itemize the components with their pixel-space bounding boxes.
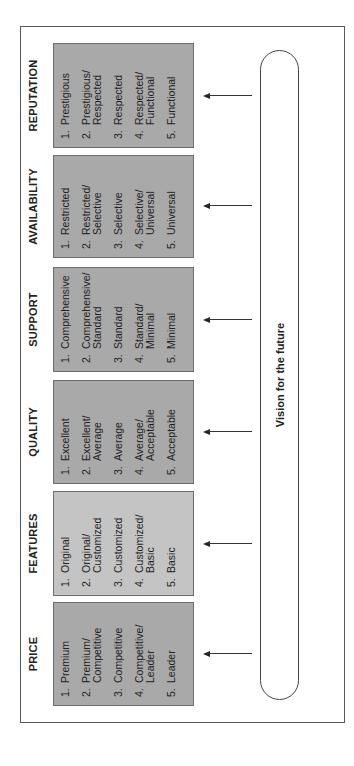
list-item: 5.Minimal xyxy=(166,272,177,363)
list-item: 3.Competitive xyxy=(113,607,124,697)
diagram-canvas: PRICE 1.Premium 2.Premium/ Competitive 3… xyxy=(0,0,354,766)
list-item: 3.Customized xyxy=(113,496,124,587)
list-item: 2.Prestigious/ Respected xyxy=(81,48,103,139)
list-item: 5.Leader xyxy=(166,607,177,697)
list-item: 4.Competitive/ Leader xyxy=(134,607,156,697)
list-item: 1.Restricted xyxy=(60,160,71,249)
options-box: 1.Restricted 2.Restricted/ Selective 3.S… xyxy=(53,155,194,258)
list-item: 1.Prestigious xyxy=(60,48,71,139)
list-item: 5.Basic xyxy=(166,496,177,587)
list-item: 4.Customized/ Basic xyxy=(134,496,156,587)
list-item: 3.Average xyxy=(113,385,124,475)
list-item: 1.Original xyxy=(60,496,71,587)
list-item: 5.Functional xyxy=(166,48,177,139)
column-title: PRICE xyxy=(27,602,39,706)
column-title: SUPPORT xyxy=(27,267,39,372)
list-item: 3.Respected xyxy=(113,48,124,139)
vision-pill: Vision for the future xyxy=(260,50,299,700)
column-reputation: REPUTATION 1.Prestigious 2.Prestigious/ … xyxy=(0,43,354,148)
options-box: 1.Excellent 2.Excellent/ Average 3.Avera… xyxy=(53,380,194,484)
column-support: SUPPORT 1.Comprehensive 2.Comprehensive/… xyxy=(0,267,354,372)
list-item: 1.Premium xyxy=(60,607,71,697)
list-item: 2.Excellent/ Average xyxy=(81,385,103,475)
column-title: QUALITY xyxy=(27,380,39,484)
list-item: 2.Premium/ Competitive xyxy=(81,607,103,697)
list-item: 2.Comprehensive/ Standard xyxy=(81,272,103,363)
list-item: 3.Standard xyxy=(113,272,124,363)
list-item: 3.Selective xyxy=(113,160,124,249)
list-item: 5.Universal xyxy=(166,160,177,249)
list-item: 5.Acceptable xyxy=(166,385,177,475)
options-box: 1.Original 2.Original/ Customized 3.Cust… xyxy=(53,491,194,596)
list-item: 4.Selective/ Universal xyxy=(134,160,156,249)
options-box: 1.Comprehensive 2.Comprehensive/ Standar… xyxy=(53,267,194,372)
list-item: 4.Average/ Acceptable xyxy=(134,385,156,475)
list-item: 1.Comprehensive xyxy=(60,272,71,363)
column-title: FEATURES xyxy=(27,491,39,596)
list-item: 2.Restricted/ Selective xyxy=(81,160,103,249)
list-item: 2.Original/ Customized xyxy=(81,496,103,587)
options-box: 1.Prestigious 2.Prestigious/ Respected 3… xyxy=(53,43,194,148)
column-title: REPUTATION xyxy=(27,43,39,148)
list-item: 4.Respected/ Functional xyxy=(134,48,156,139)
column-title: AVAILABILITY xyxy=(27,155,39,258)
column-price: PRICE 1.Premium 2.Premium/ Competitive 3… xyxy=(0,602,354,706)
column-availability: AVAILABILITY 1.Restricted 2.Restricted/ … xyxy=(0,155,354,258)
column-quality: QUALITY 1.Excellent 2.Excellent/ Average… xyxy=(0,380,354,484)
column-features: FEATURES 1.Original 2.Original/ Customiz… xyxy=(0,491,354,596)
list-item: 1.Excellent xyxy=(60,385,71,475)
options-box: 1.Premium 2.Premium/ Competitive 3.Compe… xyxy=(53,602,194,706)
vision-label: Vision for the future xyxy=(274,323,286,427)
list-item: 4.Standard/ Minimal xyxy=(134,272,156,363)
